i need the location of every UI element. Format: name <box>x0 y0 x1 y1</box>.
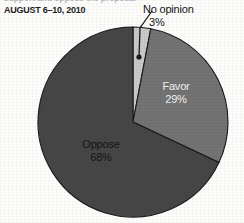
pie-slices <box>38 27 228 217</box>
pie-label-favor-name: Favor <box>148 80 204 93</box>
pie-label-favor-value: 29% <box>148 93 204 106</box>
pie-chart-svg <box>0 0 244 223</box>
pie-label-oppose-name: Oppose <box>72 138 130 151</box>
pie-label-no-opinion: No opinion 3% <box>143 3 194 29</box>
pie-label-oppose: Oppose 68% <box>72 138 130 164</box>
pie-label-no-opinion-name: No opinion <box>143 3 194 16</box>
no-opinion-leader-dot <box>136 54 141 59</box>
pie-label-oppose-value: 68% <box>72 151 130 164</box>
pie-chart-figure: support and oppose the proposal AUGUST 6… <box>0 0 244 223</box>
pie-label-favor: Favor 29% <box>148 80 204 106</box>
pie-chart <box>0 0 244 223</box>
pie-label-no-opinion-value: 3% <box>149 16 194 29</box>
